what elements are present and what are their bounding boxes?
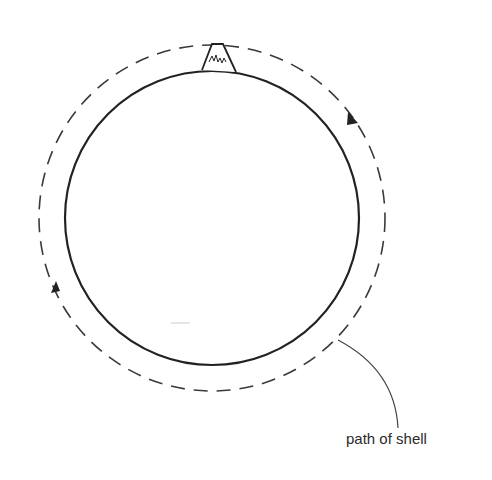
diagram-canvas — [0, 0, 492, 480]
path-of-shell-label: path of shell — [346, 430, 427, 447]
planet-circle — [65, 71, 359, 365]
arrow-left-icon — [51, 281, 60, 293]
orbit-path-dashed — [39, 45, 385, 391]
arrow-right-icon — [347, 112, 358, 125]
leader-line — [338, 340, 398, 428]
mountain-icon — [202, 44, 236, 72]
